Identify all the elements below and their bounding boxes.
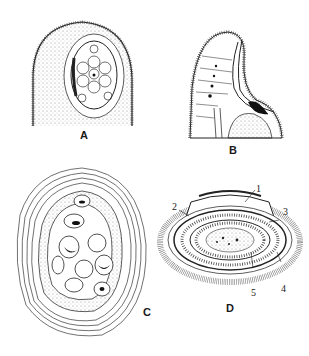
- figure-c-label: C: [143, 306, 151, 318]
- figure-b-drawing: [188, 28, 288, 140]
- figure-d-drawing: [155, 180, 305, 290]
- callout-2: 2: [172, 201, 177, 212]
- figure-a-drawing: [30, 18, 135, 128]
- figure-d: [155, 180, 305, 290]
- figure-a: [30, 18, 135, 128]
- callout-3: 3: [283, 206, 288, 217]
- callout-4: 4: [281, 283, 286, 294]
- callout-1: 1: [256, 183, 261, 194]
- figure-c-drawing: [12, 165, 152, 340]
- figure-d-label: D: [226, 302, 234, 314]
- figure-a-label: A: [80, 129, 88, 141]
- figure-c: [12, 165, 152, 340]
- figure-b-label: B: [229, 144, 237, 156]
- figure-b: [188, 28, 288, 140]
- callout-5: 5: [251, 287, 256, 298]
